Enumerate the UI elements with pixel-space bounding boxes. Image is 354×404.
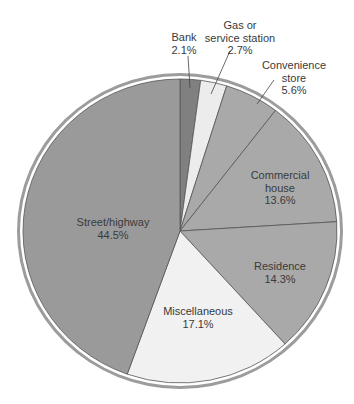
label-gas-name-1: Gas or	[205, 19, 275, 32]
label-gas-name-2: service station	[205, 32, 275, 45]
label-street: Street/highway 44.5%	[77, 216, 150, 241]
label-convenience-name-2: store	[262, 72, 326, 85]
label-commercial-value: 13.6%	[251, 194, 310, 207]
label-commercial: Commercial house 13.6%	[251, 169, 310, 207]
label-residence-value: 14.3%	[254, 273, 306, 286]
label-street-name: Street/highway	[77, 216, 150, 229]
label-misc-value: 17.1%	[163, 318, 233, 331]
label-convenience-value: 5.6%	[262, 84, 326, 97]
label-commercial-name-1: Commercial	[251, 169, 310, 182]
label-residence: Residence 14.3%	[254, 260, 306, 285]
label-bank: Bank 2.1%	[171, 31, 196, 56]
label-gas: Gas or service station 2.7%	[205, 19, 275, 57]
label-misc: Miscellaneous 17.1%	[163, 305, 233, 330]
label-bank-value: 2.1%	[171, 44, 196, 57]
label-bank-name: Bank	[171, 31, 196, 44]
label-convenience: Convenience store 5.6%	[262, 59, 326, 97]
label-convenience-name-1: Convenience	[262, 59, 326, 72]
label-residence-name: Residence	[254, 260, 306, 273]
label-street-value: 44.5%	[77, 229, 150, 242]
label-misc-name: Miscellaneous	[163, 305, 233, 318]
label-commercial-name-2: house	[251, 182, 310, 195]
label-gas-value: 2.7%	[205, 44, 275, 57]
pie-slices	[23, 79, 337, 383]
